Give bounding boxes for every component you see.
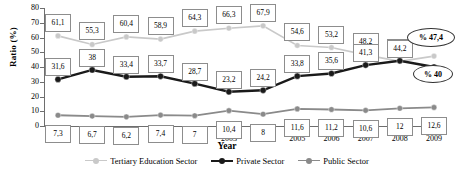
series-marker — [294, 106, 300, 112]
series-marker — [294, 43, 300, 49]
data-label: 12,6 — [421, 117, 447, 135]
series-marker — [397, 106, 403, 112]
series-marker — [89, 67, 95, 73]
y-tick-label: 60 — [20, 34, 39, 42]
series-marker — [192, 81, 198, 87]
y-tick-label: 50 — [20, 48, 39, 56]
data-label: 67,9 — [250, 4, 276, 22]
data-label: 64,3 — [182, 9, 208, 27]
series-marker — [192, 113, 198, 119]
y-tick-label: 20 — [20, 93, 39, 101]
legend-label: Public Sector — [323, 156, 369, 166]
legend-item[interactable]: Private Sector — [211, 156, 284, 166]
data-label: 6,2 — [113, 127, 139, 145]
legend-item[interactable]: Public Sector — [298, 156, 369, 166]
plot-area: 01020304050607080 1998199920002001200220… — [44, 8, 444, 126]
data-label: 23,2 — [216, 71, 242, 89]
data-label: 33,8 — [284, 55, 310, 73]
series-marker — [397, 58, 403, 64]
y-tick-label: 40 — [20, 63, 39, 71]
data-label: 55,3 — [79, 22, 105, 40]
data-label: 31,6 — [45, 58, 71, 76]
y-tick — [40, 126, 44, 127]
series-marker — [226, 25, 232, 31]
callout-label: % 47,4 — [407, 28, 455, 47]
data-label: 24,2 — [250, 69, 276, 87]
chart-legend: Tertiary Education SectorPrivate SectorP… — [0, 156, 454, 166]
data-label: 7 — [182, 126, 208, 144]
series-marker — [294, 73, 300, 79]
data-label: 28,7 — [182, 63, 208, 81]
data-label: 7,3 — [45, 125, 71, 143]
data-label: 35,6 — [318, 52, 344, 70]
data-label: 10,4 — [216, 121, 242, 139]
legend-marker-icon — [298, 157, 320, 165]
data-label: 41,3 — [353, 44, 379, 62]
series-marker — [226, 89, 232, 95]
legend-marker-icon — [85, 157, 107, 165]
data-label: 10,6 — [353, 120, 379, 138]
data-label: 11,2 — [318, 119, 344, 137]
y-tick-label: 30 — [20, 78, 39, 86]
data-label: 53,2 — [318, 26, 344, 44]
data-label: 60,4 — [113, 15, 139, 33]
data-label: 12 — [387, 118, 413, 136]
y-tick-label: 70 — [20, 19, 39, 27]
legend-item[interactable]: Tertiary Education Sector — [85, 156, 197, 166]
y-tick-label: 80 — [20, 4, 39, 12]
data-label: 8 — [250, 124, 276, 142]
legend-marker-icon — [211, 157, 233, 165]
y-tick-label: 10 — [20, 107, 39, 115]
y-tick-label: 0 — [20, 122, 39, 130]
series-marker — [55, 76, 61, 82]
series-marker — [363, 108, 369, 114]
data-label: 33,4 — [113, 56, 139, 74]
series-marker — [431, 53, 437, 59]
legend-label: Private Sector — [236, 156, 284, 166]
series-marker — [329, 45, 335, 51]
data-label: 66,3 — [216, 6, 242, 24]
series-marker — [363, 62, 369, 68]
series-marker — [260, 87, 266, 93]
series-marker — [226, 108, 232, 114]
series-marker — [124, 114, 130, 120]
series-marker — [89, 113, 95, 119]
data-label: 7,4 — [148, 125, 174, 143]
data-label: 44,2 — [387, 40, 413, 58]
data-label: 6,7 — [79, 126, 105, 144]
data-label: 61,1 — [45, 14, 71, 32]
data-label: 33,7 — [148, 55, 174, 73]
series-marker — [157, 73, 163, 79]
series-marker — [260, 111, 266, 117]
data-label: 54,6 — [284, 23, 310, 41]
series-marker — [123, 74, 129, 80]
series-marker — [55, 33, 61, 39]
data-label: 11,6 — [284, 119, 310, 137]
series-marker — [158, 112, 164, 118]
series-marker — [192, 28, 198, 34]
series-marker — [328, 70, 334, 76]
series-marker — [55, 112, 61, 118]
callout-label: % 40 — [413, 65, 453, 83]
data-label: 38 — [79, 49, 105, 67]
series-marker — [89, 42, 95, 48]
data-label: 58,9 — [148, 17, 174, 35]
series-marker — [431, 105, 437, 111]
y-axis-title: Ratio (%) — [8, 12, 18, 82]
series-marker — [158, 36, 164, 42]
series-line — [58, 107, 434, 116]
series-marker — [260, 23, 266, 29]
series-marker — [329, 107, 335, 113]
series-marker — [124, 34, 130, 40]
legend-label: Tertiary Education Sector — [110, 156, 197, 166]
